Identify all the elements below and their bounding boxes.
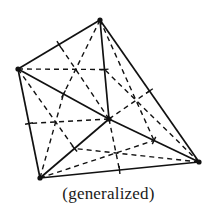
edge-R-T [100, 20, 199, 162]
edge-BL-C [40, 119, 109, 178]
median-line [105, 70, 200, 163]
median-dashed-lines [18, 20, 199, 178]
vertex-BL [37, 175, 42, 180]
edge-BL-R [40, 162, 199, 178]
vertex-T [97, 17, 102, 22]
edge-L-C [18, 69, 109, 119]
generalized-triangulation-diagram [0, 0, 217, 209]
solid-edges [18, 20, 199, 178]
median-line [59, 45, 109, 120]
vertex-R [196, 159, 201, 164]
vertex-C [106, 116, 111, 121]
median-line [100, 20, 154, 141]
vertex-L [15, 66, 20, 71]
median-line [109, 91, 150, 119]
median-line [40, 94, 64, 178]
median-line [109, 119, 120, 170]
median-line [18, 69, 105, 70]
vertex-dots [15, 17, 201, 180]
median-line [29, 119, 109, 124]
edge-R-C [109, 119, 199, 162]
figure-caption: (generalized) [0, 184, 217, 204]
